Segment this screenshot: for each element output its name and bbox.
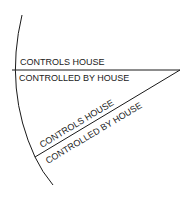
upper-controls-label: CONTROLS HOUSE bbox=[20, 57, 105, 67]
house-diagram: CONTROLS HOUSE CONTROLLED BY HOUSE CONTR… bbox=[0, 0, 191, 198]
lower-cusp-line bbox=[35, 70, 180, 157]
upper-controlled-label: CONTROLLED BY HOUSE bbox=[19, 73, 129, 83]
